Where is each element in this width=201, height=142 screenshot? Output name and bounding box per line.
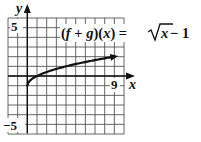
equation-minus-one: − 1 bbox=[170, 25, 189, 41]
curve-sqrt-x-minus-1 bbox=[27, 57, 114, 86]
y-tick-label-5: 5 bbox=[11, 19, 18, 34]
y-axis-label: y bbox=[14, 1, 23, 16]
y-axis-arrow-icon bbox=[24, 4, 31, 13]
y-tick-label-neg5: −5 bbox=[3, 118, 17, 133]
equation-label: (f + g)(x) = bbox=[61, 25, 127, 42]
x-axis-label: x bbox=[128, 77, 136, 92]
y-axis bbox=[24, 4, 31, 133]
x-tick-label-9: 9 bbox=[111, 77, 118, 92]
chart-canvas: 5 −5 9 y x (f + g)(x) = x − 1 bbox=[0, 0, 201, 142]
equation-radicand: x bbox=[160, 25, 168, 41]
